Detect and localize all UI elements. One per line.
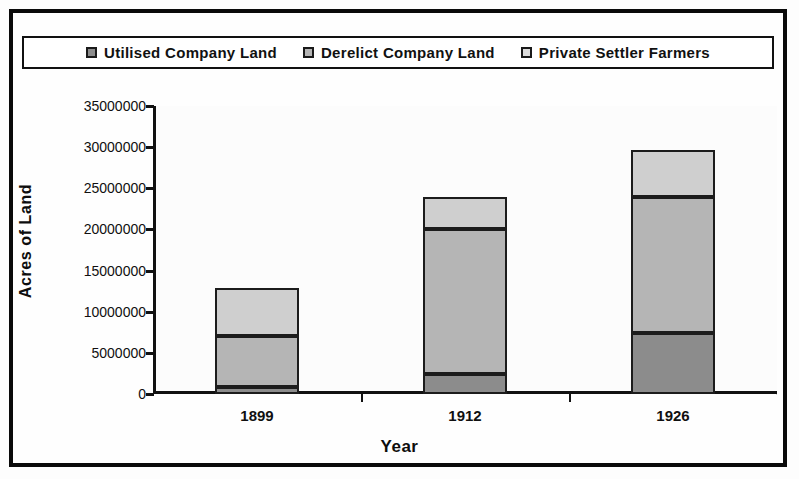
legend-swatch-icon bbox=[303, 47, 314, 58]
legend-item[interactable]: Private Settler Farmers bbox=[521, 44, 710, 61]
chart-legend: Utilised Company LandDerelict Company La… bbox=[22, 36, 774, 69]
legend-item-label: Utilised Company Land bbox=[104, 44, 277, 61]
legend-item-label: Private Settler Farmers bbox=[539, 44, 710, 61]
chart-screenshot: Utilised Company LandDerelict Company La… bbox=[0, 0, 799, 479]
legend-item[interactable]: Derelict Company Land bbox=[303, 44, 495, 61]
chart-outer-frame bbox=[9, 9, 787, 467]
legend-item-label: Derelict Company Land bbox=[321, 44, 495, 61]
legend-swatch-icon bbox=[86, 47, 97, 58]
legend-items: Utilised Company LandDerelict Company La… bbox=[86, 44, 710, 61]
legend-swatch-icon bbox=[521, 47, 532, 58]
legend-item[interactable]: Utilised Company Land bbox=[86, 44, 277, 61]
